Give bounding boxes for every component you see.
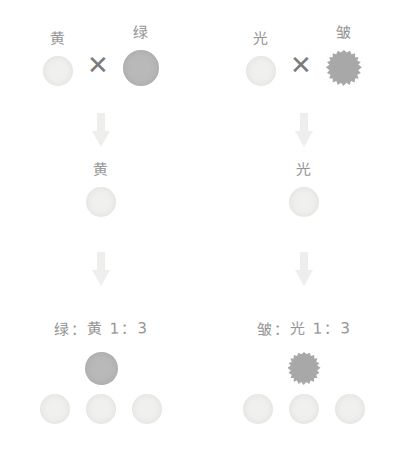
parent-1: 黄	[43, 32, 73, 86]
parent-2-seed-green	[123, 50, 159, 86]
f2-ratio-label: 绿：黄 1：3	[54, 321, 149, 338]
f2-ratio-label: 皱：光 1：3	[257, 321, 352, 338]
f2-seed-green-recessive	[85, 352, 118, 385]
arrow-stem	[300, 252, 308, 272]
parent-1-seed-yellow	[43, 56, 73, 86]
arrow-head	[295, 270, 313, 286]
f2-seed-smooth-3	[335, 394, 365, 424]
parent-1-label: 光	[253, 32, 269, 47]
arrow-stem	[97, 113, 105, 133]
f2-dominant-row	[243, 394, 365, 424]
parent-2-seed-wrinkled	[326, 50, 362, 86]
parent-2: 皱	[326, 26, 362, 86]
f2-seed-smooth-1	[243, 394, 273, 424]
f2-recessive-row	[85, 352, 118, 385]
parent-cross-row: 黄 ✕ 绿	[0, 26, 202, 86]
f1-label: 黄	[93, 163, 109, 178]
parent-1-seed-smooth	[246, 56, 276, 86]
f1-seed-smooth	[289, 187, 319, 217]
parent-2-label: 绿	[133, 26, 149, 41]
parent-1-label: 黄	[50, 32, 66, 47]
multiply-symbol-wrap: ✕	[87, 48, 109, 86]
f2-recessive-row	[288, 352, 321, 385]
multiply-icon: ✕	[290, 52, 312, 78]
f1-generation-row: 黄	[0, 163, 202, 217]
panel-seed-shape-cross: 光 ✕ 皱 光	[203, 0, 405, 453]
parent-2: 绿	[123, 26, 159, 86]
down-arrow-icon	[91, 113, 111, 147]
f2-seed-group	[0, 352, 202, 424]
f2-seed-smooth-2	[289, 394, 319, 424]
f2-grid	[40, 352, 162, 424]
f1-label: 光	[296, 163, 312, 178]
f1-group: 光	[289, 163, 319, 217]
down-arrow-icon	[294, 113, 314, 147]
arrow-head	[92, 131, 110, 147]
f2-seed-yellow-1	[40, 394, 70, 424]
panel-seed-color-cross: 黄 ✕ 绿 黄	[0, 0, 202, 453]
f2-ratio-row: 皱：光 1：3	[203, 322, 405, 337]
f2-seed-yellow-3	[132, 394, 162, 424]
f2-seed-group	[203, 352, 405, 424]
f2-seed-wrinkled-recessive	[288, 352, 321, 385]
f1-generation-row: 光	[203, 163, 405, 217]
arrow-head	[295, 131, 313, 147]
f1-seed-yellow	[86, 187, 116, 217]
arrow-head	[92, 270, 110, 286]
down-arrow-icon	[91, 252, 111, 286]
multiply-icon: ✕	[87, 52, 109, 78]
arrow-to-f1-row	[0, 113, 202, 147]
parent-1: 光	[246, 32, 276, 86]
f2-grid	[243, 352, 365, 424]
down-arrow-icon	[294, 252, 314, 286]
multiply-symbol-wrap: ✕	[290, 48, 312, 86]
f2-ratio-row: 绿：黄 1：3	[0, 322, 202, 337]
arrow-stem	[300, 113, 308, 133]
diagram-canvas: 黄 ✕ 绿 黄	[0, 0, 405, 453]
f2-seed-yellow-2	[86, 394, 116, 424]
arrow-stem	[97, 252, 105, 272]
arrow-to-f1-row	[203, 113, 405, 147]
arrow-to-f2-row	[0, 252, 202, 286]
f1-group: 黄	[86, 163, 116, 217]
f2-dominant-row	[40, 394, 162, 424]
parent-cross-row: 光 ✕ 皱	[203, 26, 405, 86]
parent-2-label: 皱	[336, 26, 352, 41]
arrow-to-f2-row	[203, 252, 405, 286]
